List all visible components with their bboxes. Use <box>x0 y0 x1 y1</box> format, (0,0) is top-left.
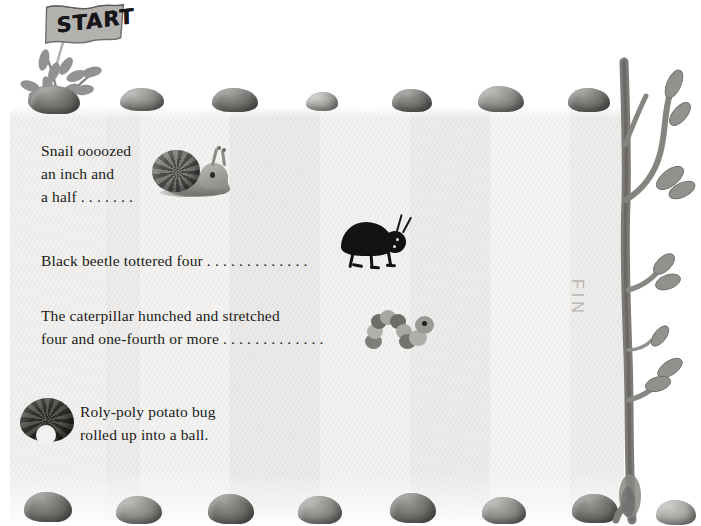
rock-bottom-2 <box>116 496 162 524</box>
rock-bottom-4 <box>298 496 342 524</box>
rock-top-4 <box>306 92 338 111</box>
beetle-spot <box>393 245 396 248</box>
beetle-leg-6 <box>386 264 396 268</box>
rock-top-5 <box>392 89 432 112</box>
caterpillar-eye <box>422 321 427 326</box>
verse-rolypoly: Roly-poly potato bug rolled up into a ba… <box>80 400 216 446</box>
snail-eye <box>210 172 215 178</box>
snail-antenna-tip-2 <box>222 148 226 152</box>
verse-beetle: Black beetle tottered four . . . . . . .… <box>41 249 308 272</box>
rock-top-3 <box>212 88 258 112</box>
rock-flag-base <box>30 86 80 114</box>
rock-bottom-6 <box>482 497 526 524</box>
beetle-head <box>384 231 406 253</box>
storybook-page: START Snail oooozed an inch and a half .… <box>0 0 701 526</box>
snail-antenna-tip-1 <box>217 146 221 150</box>
rock-top-6 <box>478 86 524 112</box>
beetle-eye <box>396 238 399 241</box>
pillbug-curl-notch <box>36 425 56 445</box>
verse-snail: Snail oooozed an inch and a half . . . .… <box>41 139 133 208</box>
verse-caterpillar: The caterpillar hunched and stretched fo… <box>41 304 324 350</box>
fin-label: FIN <box>568 279 586 317</box>
tree-branch-icon <box>598 50 701 526</box>
